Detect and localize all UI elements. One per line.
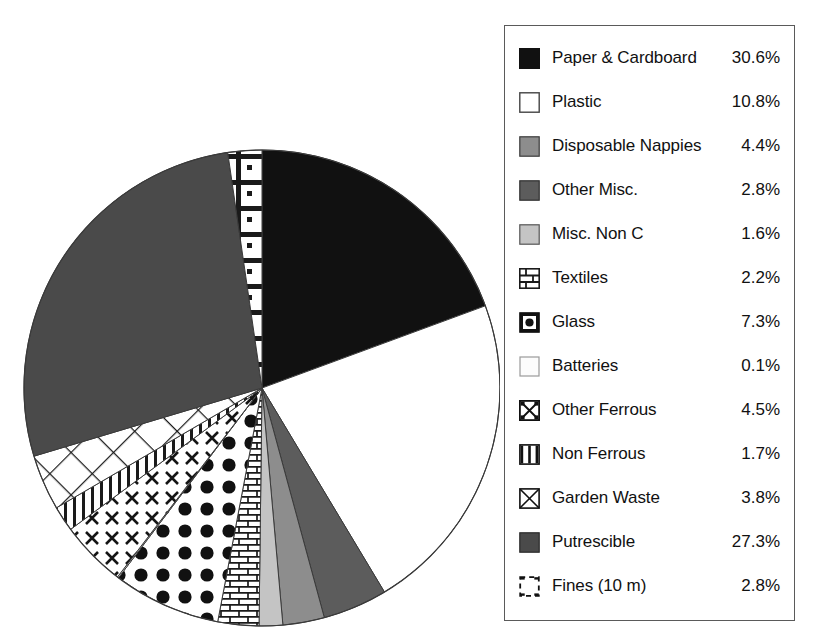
legend-item-paper-cardboard[interactable]: Paper & Cardboard 30.6%	[519, 36, 780, 80]
legend-label: Other Ferrous	[549, 400, 722, 420]
solid-gray-swatch	[519, 136, 549, 157]
waste-composition-pie-figure: Paper & Cardboard 30.6% Plastic 10.8% Di…	[0, 0, 824, 639]
legend-item-plastic[interactable]: Plastic 10.8%	[519, 80, 780, 124]
legend-label: Paper & Cardboard	[549, 48, 722, 68]
brick-pattern-swatch	[519, 268, 549, 289]
legend-value: 1.7%	[722, 444, 780, 464]
legend-value: 4.4%	[722, 136, 780, 156]
legend-item-other-ferrous[interactable]: Other Ferrous 4.5%	[519, 388, 780, 432]
legend-label: Batteries	[549, 356, 722, 376]
legend-value: 0.1%	[722, 356, 780, 376]
solid-white-swatch	[519, 92, 549, 113]
legend-label: Putrescible	[549, 532, 722, 552]
legend-item-glass[interactable]: Glass 7.3%	[519, 300, 780, 344]
legend-value: 3.8%	[722, 488, 780, 508]
legend-label: Other Misc.	[549, 180, 722, 200]
legend-value: 2.8%	[722, 180, 780, 200]
vertical-lines-swatch	[519, 444, 549, 465]
legend-label: Non Ferrous	[549, 444, 722, 464]
legend-item-other-misc[interactable]: Other Misc. 2.8%	[519, 168, 780, 212]
legend-label: Misc. Non C	[549, 224, 722, 244]
dot-pattern-swatch	[519, 312, 549, 333]
solid-light-gray-swatch	[519, 224, 549, 245]
legend-label: Plastic	[549, 92, 722, 112]
legend-label: Fines (10 m)	[549, 576, 722, 596]
chart-legend: Paper & Cardboard 30.6% Plastic 10.8% Di…	[504, 25, 795, 621]
pie-chart-svg	[0, 0, 500, 639]
solid-black-swatch	[519, 48, 549, 69]
solid-dark-gray-swatch	[519, 180, 549, 201]
legend-label: Garden Waste	[549, 488, 722, 508]
legend-item-batteries[interactable]: Batteries 0.1%	[519, 344, 780, 388]
dashed-box-swatch	[519, 576, 549, 597]
legend-value: 30.6%	[722, 48, 780, 68]
legend-value: 27.3%	[722, 532, 780, 552]
legend-value: 10.8%	[722, 92, 780, 112]
legend-item-garden-waste[interactable]: Garden Waste 3.8%	[519, 476, 780, 520]
legend-label: Disposable Nappies	[549, 136, 722, 156]
legend-item-textiles[interactable]: Textiles 2.2%	[519, 256, 780, 300]
pie-chart	[0, 0, 500, 639]
legend-label: Glass	[549, 312, 722, 332]
legend-value: 1.6%	[722, 224, 780, 244]
legend-item-fines[interactable]: Fines (10 m) 2.8%	[519, 564, 780, 608]
legend-value: 2.8%	[722, 576, 780, 596]
cross-diagonal-swatch	[519, 488, 549, 509]
legend-value: 2.2%	[722, 268, 780, 288]
legend-item-non-ferrous[interactable]: Non Ferrous 1.7%	[519, 432, 780, 476]
solid-charcoal-swatch	[519, 532, 549, 553]
legend-item-misc-non-c[interactable]: Misc. Non C 1.6%	[519, 212, 780, 256]
legend-value: 7.3%	[722, 312, 780, 332]
legend-item-disposable-nappies[interactable]: Disposable Nappies 4.4%	[519, 124, 780, 168]
blank-pattern-swatch	[519, 356, 549, 377]
legend-label: Textiles	[549, 268, 722, 288]
legend-item-putrescible[interactable]: Putrescible 27.3%	[519, 520, 780, 564]
boxed-cross-pattern-swatch	[519, 400, 549, 421]
legend-value: 4.5%	[722, 400, 780, 420]
